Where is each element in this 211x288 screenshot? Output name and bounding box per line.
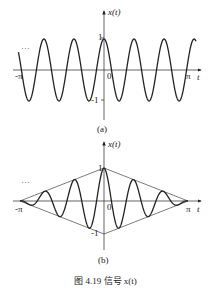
panel-a-origin: 0 <box>107 72 112 81</box>
panel-a-tick-neg1: -1 <box>91 96 99 105</box>
panel-a-tick-1: 1 <box>98 33 103 42</box>
panel-b-xlabel: t <box>197 205 200 214</box>
panel-b-tag: (b) <box>98 256 109 265</box>
panel-b-continuation-dots: … <box>21 176 30 185</box>
panel-a-continuation-dots: … <box>21 42 30 51</box>
panel-b-tick-neg1: -1 <box>91 229 99 238</box>
panel-a-tag: (a) <box>97 125 107 134</box>
panel-a-tick-neg-pi: -π <box>15 72 23 81</box>
panel-b-tick-1: 1 <box>98 164 103 173</box>
panel-a-axes <box>13 11 201 120</box>
figure-caption: 图 4.19 信号 x(t) <box>0 274 211 287</box>
panel-a-tick-pi: π <box>186 72 191 81</box>
panel-b-axes <box>13 142 201 250</box>
panel-a-ylabel: x(t) <box>108 8 121 17</box>
panel-a-xlabel: t <box>197 73 200 82</box>
panel-b-origin: 0 <box>107 203 112 212</box>
panel-b-ylabel: x(t) <box>108 140 121 149</box>
panel-b-tick-neg-pi: -π <box>15 205 23 214</box>
panel-b-tick-pi: π <box>186 205 191 214</box>
figure-plots <box>0 0 211 288</box>
